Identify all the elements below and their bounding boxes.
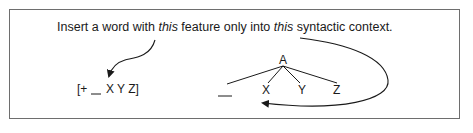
feature-frame-open: [+: [77, 82, 87, 96]
context-arrow: [263, 38, 388, 106]
diagram-canvas: Insert a word with this feature only int…: [0, 0, 473, 133]
instruction-text: Insert a word with this feature only int…: [57, 20, 393, 34]
tree-leaf-y: Y: [298, 83, 306, 97]
feature-arrow: [109, 40, 155, 76]
tree-leaf-z: Z: [333, 83, 340, 97]
tree-root-node: A: [279, 53, 287, 67]
tree-leaf-x: X: [262, 83, 270, 97]
feature-frame-rest: X Y Z]: [106, 82, 139, 96]
